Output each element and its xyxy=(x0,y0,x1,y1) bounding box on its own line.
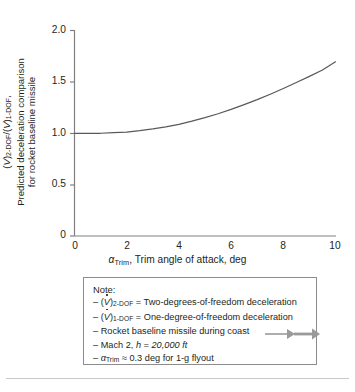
note-line-3: – Rocket baseline missile during coast xyxy=(93,325,312,338)
note-line-2-dash: – xyxy=(93,312,98,322)
figure-container: (V)2-DOF/(V)1-DOF, Predicted deceleratio… xyxy=(0,0,355,392)
note-line-2-text: = One-degree-of-freedom deceleration xyxy=(133,312,293,322)
x-axis-label-subscript: Trim xyxy=(114,258,129,267)
note-line-5-subscript: Trim xyxy=(106,356,119,363)
note-line-1-text: = Two-degrees-of-freedom deceleration xyxy=(133,297,297,307)
note-line-5-dash: – xyxy=(93,353,98,363)
note-line-5-text: ≈ 0.3 deg for 1-g flyout xyxy=(119,353,213,363)
x-tick-label-2: 2 xyxy=(115,240,139,251)
note-line-4-text-b: h = 20,000 ft xyxy=(136,340,187,350)
x-tick-label-8: 8 xyxy=(271,240,295,251)
y-axis-label-line1: (V)2-DOF/(V)1-DOF, xyxy=(1,58,15,206)
note-line-5: – αTrim ≈ 0.3 deg for 1-g flyout xyxy=(93,352,312,367)
note-line-3-dash: – xyxy=(93,326,98,336)
note-line-2-subscript: 1-DOF xyxy=(113,315,133,322)
deceleration-ratio-curve xyxy=(75,62,336,133)
y-tick-label-1.5: 1.5 xyxy=(40,75,66,86)
note-line-4-dash: – xyxy=(93,340,98,350)
y-axis-label-line2: Predicted deceleration comparisonfor roc… xyxy=(15,58,38,206)
x-tick-label-4: 4 xyxy=(167,240,191,251)
note-line-2: – (V)1-DOF = One-degree-of-freedom decel… xyxy=(93,311,312,326)
note-line-1-dash: – xyxy=(93,297,98,307)
x-tick-label-10: 10 xyxy=(323,240,347,251)
note-line-1: – (V)2-DOF = Two-degrees-of-freedom dece… xyxy=(93,296,312,311)
y-axis-label: (V)2-DOF/(V)1-DOF, Predicted deceleratio… xyxy=(8,26,30,238)
footer-divider xyxy=(6,378,349,379)
x-axis-label-rest: , Trim angle of attack, deg xyxy=(129,254,246,265)
note-line-1-subscript: 2-DOF xyxy=(113,300,133,307)
note-title: Note: xyxy=(93,283,312,296)
y-tick-marks xyxy=(70,31,75,237)
x-tick-label-0: 0 xyxy=(63,240,87,251)
x-axis-label: αTrim, Trim angle of attack, deg xyxy=(0,254,355,267)
note-line-4-text-a: Mach 2, xyxy=(101,340,136,350)
y-tick-label-1.0: 1.0 xyxy=(40,127,66,138)
note-line-3-text: Rocket baseline missile during coast xyxy=(101,326,250,336)
y-tick-label-0: 0 xyxy=(40,229,66,240)
note-line-4: – Mach 2, h = 20,000 ft xyxy=(93,339,312,352)
y-tick-label-0.5: 0.5 xyxy=(40,178,66,189)
note-box: Note: – (V)2-DOF = Two-degrees-of-freedo… xyxy=(83,277,317,365)
y-tick-label-2.0: 2.0 xyxy=(40,24,66,35)
x-tick-label-6: 6 xyxy=(219,240,243,251)
